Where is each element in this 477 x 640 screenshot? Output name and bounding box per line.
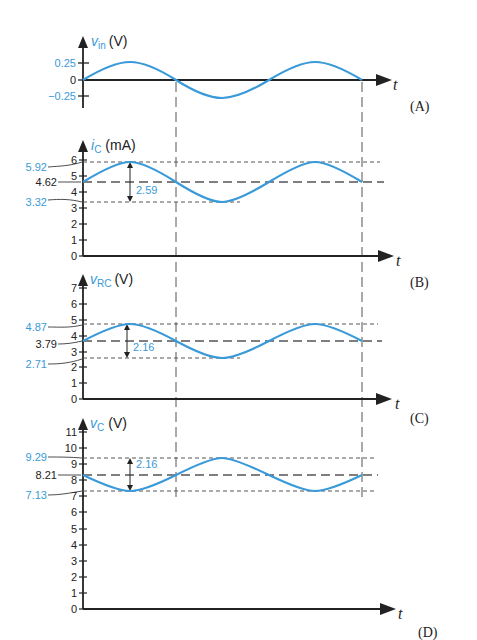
- svg-text:6: 6: [71, 298, 77, 310]
- svg-text:3: 3: [71, 346, 77, 358]
- panel-label-d: (D): [418, 625, 438, 640]
- vc-max-label: 9.29: [26, 451, 47, 463]
- panel-label-c: (C): [410, 411, 429, 427]
- panel-a-vin: 0.25 0 −0.25 vin(V) t (A): [48, 33, 430, 115]
- x-axis-arrow-icon: [378, 250, 394, 262]
- y-ticks: 0 1 2 3 4 5 6 7: [71, 282, 87, 405]
- svg-text:8: 8: [71, 474, 77, 486]
- svg-text:11: 11: [66, 426, 77, 438]
- vrc-min-label: 2.71: [26, 358, 47, 370]
- svg-text:10: 10: [65, 442, 77, 454]
- svg-text:t: t: [398, 605, 403, 622]
- vc-peak-to-peak-label: 2.16: [136, 458, 157, 470]
- svg-text:2: 2: [71, 361, 77, 373]
- svg-text:1: 1: [71, 234, 77, 246]
- y-ticks: 0 1 2 3 4 5 6: [71, 154, 87, 262]
- svg-text:0: 0: [71, 603, 77, 615]
- axis-title-vc: vC(V): [90, 415, 127, 433]
- y-axis-arrow-icon: [78, 140, 88, 152]
- y-axis-arrow-icon: [78, 274, 88, 286]
- svg-text:1: 1: [71, 377, 77, 389]
- ytick-0.25: 0.25: [55, 57, 76, 69]
- arrow-down-icon: [124, 352, 130, 358]
- panel-d-vc: 0 1 2 3 4 5 6 7 8 9 10 11 vC(V) 9.29 8.2…: [26, 415, 438, 640]
- svg-text:7: 7: [71, 282, 77, 294]
- x-axis-arrow-icon: [376, 393, 392, 405]
- x-axis-label-t: t: [393, 76, 398, 93]
- axis-title-vrc: vRC(V): [90, 271, 133, 289]
- panel-c-vrc: 0 1 2 3 4 5 6 7 vRC(V) 4.87 3.79 2.71 2.…: [26, 271, 429, 427]
- svg-text:4: 4: [71, 539, 77, 551]
- vrc-peak-to-peak-label: 2.16: [133, 341, 154, 353]
- svg-text:4: 4: [71, 186, 77, 198]
- vc-dc-label: 8.21: [36, 469, 57, 481]
- axis-title-ic: iC(mA): [91, 137, 136, 155]
- svg-text:t: t: [396, 252, 401, 269]
- ic-waveform: [83, 162, 362, 202]
- ic-peak-to-peak-label: 2.59: [136, 184, 157, 196]
- vc-min-label: 7.13: [26, 489, 47, 501]
- vrc-dc-label: 3.79: [36, 338, 57, 350]
- svg-text:5: 5: [71, 314, 77, 326]
- phase-guide-lines: [176, 82, 362, 498]
- vc-waveform: [83, 458, 362, 491]
- svg-text:3: 3: [71, 202, 77, 214]
- axis-title-vin: vin(V): [91, 33, 127, 51]
- vrc-max-label: 4.87: [26, 321, 47, 333]
- ic-min-label: 3.32: [26, 196, 47, 208]
- svg-text:2: 2: [71, 218, 77, 230]
- waveform-figure: 0.25 0 −0.25 vin(V) t (A) 0 1 2 3 4 5: [0, 0, 477, 640]
- svg-text:5: 5: [71, 170, 77, 182]
- svg-text:1: 1: [71, 587, 77, 599]
- x-axis-arrow-icon: [376, 74, 392, 86]
- svg-text:9: 9: [71, 458, 77, 470]
- svg-text:0: 0: [71, 393, 77, 405]
- x-axis-arrow-icon: [380, 603, 396, 615]
- arrow-up-icon: [127, 458, 133, 464]
- svg-text:t: t: [395, 395, 400, 412]
- ic-max-label: 5.92: [26, 161, 47, 173]
- panel-label-b: (B): [410, 275, 429, 291]
- panel-label-a: (A): [410, 99, 430, 115]
- svg-text:3: 3: [71, 555, 77, 567]
- ic-dc-label: 4.62: [36, 176, 57, 188]
- y-axis-arrow-icon: [78, 36, 88, 48]
- svg-text:5: 5: [71, 523, 77, 535]
- ytick-neg-0.25: −0.25: [48, 90, 76, 102]
- svg-text:0: 0: [71, 250, 77, 262]
- svg-text:6: 6: [71, 506, 77, 518]
- panel-b-ic: 0 1 2 3 4 5 6 iC(mA) 5.92 4.62 3.32 2.59…: [26, 137, 429, 291]
- y-axis-arrow-icon: [78, 418, 88, 430]
- svg-text:4: 4: [71, 330, 77, 342]
- svg-text:2: 2: [71, 571, 77, 583]
- arrow-down-icon: [127, 196, 133, 202]
- ytick-0: 0: [70, 74, 76, 86]
